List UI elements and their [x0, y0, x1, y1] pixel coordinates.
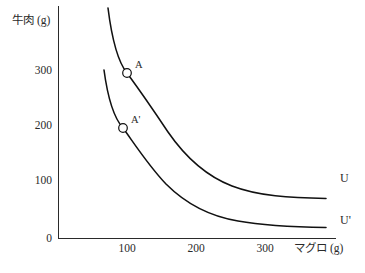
- data-point-A-prime-marker[interactable]: [119, 124, 128, 133]
- y-axis-title: 牛肉 (g): [12, 13, 50, 27]
- y-tick-label-300: 300: [35, 64, 53, 76]
- y-tick-label-0: 0: [46, 232, 52, 244]
- annotation-markers-group: A A': [119, 59, 143, 132]
- curve-label-U-prime: U': [340, 213, 351, 227]
- y-tick-labels-group: 300 200 100 0: [35, 64, 53, 244]
- x-axis-title: マグロ (g): [294, 241, 343, 255]
- y-tick-label-100: 100: [35, 174, 53, 186]
- axes-group: [59, 6, 337, 239]
- curve-labels-group: U U': [340, 171, 351, 227]
- y-tick-label-200: 200: [35, 119, 53, 131]
- data-point-A-label: A: [135, 59, 143, 70]
- curve-label-U: U: [340, 171, 349, 185]
- x-tick-label-100: 100: [118, 242, 136, 254]
- curve-U: [108, 8, 326, 199]
- data-point-A-marker[interactable]: [123, 69, 132, 78]
- curve-U-prime: [104, 70, 326, 228]
- chart-canvas: 300 200 100 0 100 200 300 牛肉 (g) マグロ (g)…: [0, 0, 365, 273]
- x-tick-label-200: 200: [187, 242, 205, 254]
- indifference-curve-chart: 300 200 100 0 100 200 300 牛肉 (g) マグロ (g)…: [0, 0, 365, 273]
- x-tick-labels-group: 100 200 300: [118, 242, 274, 254]
- data-point-A-prime-label: A': [131, 114, 141, 125]
- x-tick-label-300: 300: [256, 242, 274, 254]
